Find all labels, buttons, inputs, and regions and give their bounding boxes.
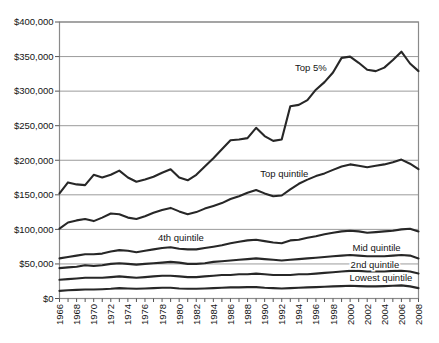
y-axis-labels: $0$50,000$100,000$150,000$200,000$250,00… [14, 16, 54, 304]
series-line-lowest-quintile [60, 285, 419, 291]
x-axis-label: 1998 [328, 304, 339, 325]
x-axis-label: 1968 [71, 304, 82, 325]
x-axis-label: 1972 [105, 304, 116, 325]
x-axis-label: 2002 [362, 304, 373, 325]
x-axis-label: 1966 [54, 304, 65, 325]
series-label-top-quintile: Top quintile [260, 168, 308, 179]
x-axis-label: 1980 [174, 304, 185, 325]
y-axis-label: $300,000 [14, 85, 54, 96]
x-axis-label: 1990 [259, 304, 270, 325]
y-axis-label: $50,000 [19, 258, 53, 269]
series-line-top-quintile [60, 160, 419, 229]
x-axis-label: 1994 [293, 304, 304, 325]
y-axis-label: $400,000 [14, 16, 54, 27]
income-by-quintile-chart: $0$50,000$100,000$150,000$200,000$250,00… [0, 0, 439, 343]
x-axis-label: 1984 [208, 304, 219, 325]
series-label-mid-quintile: Mid quintile [353, 242, 401, 253]
x-axis-label: 2008 [413, 304, 424, 325]
x-axis-label: 1982 [191, 304, 202, 325]
series-line-top-5 [60, 52, 419, 194]
y-axis-label: $100,000 [14, 224, 54, 235]
series-label-lowest-quintile: Lowest quintile [349, 272, 412, 283]
y-axis-label: $0 [43, 293, 54, 304]
x-axis-label: 1988 [242, 304, 253, 325]
x-axis-label: 2004 [379, 304, 390, 325]
series-label-4th-quintile: 4th quintile [158, 232, 204, 243]
x-axis-label: 1976 [139, 304, 150, 325]
y-axis-ticks [55, 22, 60, 299]
y-axis-label: $200,000 [14, 155, 54, 166]
y-axis-label: $250,000 [14, 120, 54, 131]
x-axis-label: 1992 [276, 304, 287, 325]
series-label-top-5: Top 5% [295, 62, 327, 73]
x-axis-label: 1986 [225, 304, 236, 325]
series-label-2nd-quintile: 2nd quintile [351, 259, 400, 270]
chart-svg: $0$50,000$100,000$150,000$200,000$250,00… [0, 0, 439, 343]
y-axis-label: $350,000 [14, 51, 54, 62]
y-axis-label: $150,000 [14, 189, 54, 200]
x-axis-label: 1974 [122, 304, 133, 325]
x-axis-label: 1970 [88, 304, 99, 325]
x-axis-label: 2000 [345, 304, 356, 325]
x-axis-label: 1978 [157, 304, 168, 325]
x-axis-labels: 1966196819701972197419761978198019821984… [54, 304, 424, 325]
x-axis-label: 1996 [310, 304, 321, 325]
x-axis-label: 2006 [396, 304, 407, 325]
